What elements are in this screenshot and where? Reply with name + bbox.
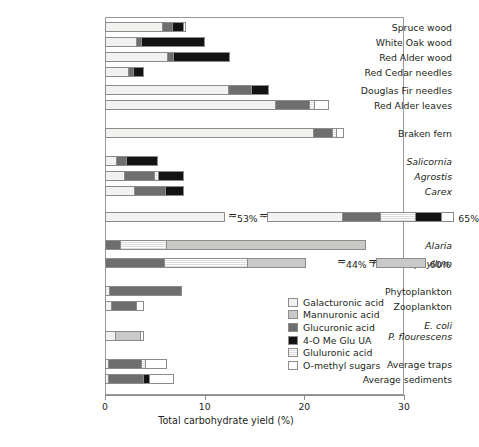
x-tick-2 bbox=[304, 395, 305, 400]
bar-segment bbox=[108, 374, 143, 384]
bar-segment bbox=[380, 212, 416, 222]
bar-segment bbox=[105, 22, 162, 32]
bar-segment bbox=[166, 240, 366, 250]
axis-break-right-12: ≂ bbox=[368, 257, 377, 267]
category-label-8: Agrostis bbox=[349, 172, 452, 182]
bar-segment bbox=[105, 100, 275, 110]
category-label-9: Carex bbox=[349, 187, 452, 197]
legend-swatch-0 bbox=[288, 298, 298, 307]
axis-break-left-10: ≂ bbox=[228, 211, 237, 221]
x-tick-3 bbox=[404, 395, 405, 400]
x-tick-0 bbox=[105, 395, 106, 400]
bar-segment bbox=[105, 212, 225, 222]
x-axis-line bbox=[105, 395, 404, 396]
legend-swatch-4 bbox=[288, 348, 298, 357]
bar-segment bbox=[111, 301, 136, 311]
bar-segment bbox=[105, 67, 128, 77]
bar-segment bbox=[267, 212, 342, 222]
legend-swatch-5 bbox=[288, 361, 298, 370]
legend-item-0: Galacturonic acid bbox=[288, 296, 384, 309]
total-value-label-10: 65% bbox=[458, 213, 479, 224]
bar-segment bbox=[173, 52, 229, 62]
bar-segment bbox=[105, 186, 134, 196]
bar-segment bbox=[183, 22, 185, 32]
bar-segment bbox=[313, 128, 332, 138]
bar-segment bbox=[134, 186, 165, 196]
bar-segment bbox=[136, 301, 144, 311]
legend-label-4: Gluluronic acid bbox=[303, 347, 372, 358]
bar-18 bbox=[105, 374, 174, 384]
bar-segment bbox=[314, 100, 329, 110]
bar-segment bbox=[105, 258, 164, 268]
bar-7 bbox=[105, 156, 158, 166]
category-label-3: Red Cedar needles bbox=[349, 68, 452, 78]
bar-segment bbox=[247, 258, 307, 268]
x-tick-label-3: 30 bbox=[398, 401, 410, 412]
bar-segment bbox=[115, 331, 140, 341]
bar-segment bbox=[336, 128, 344, 138]
legend-label-3: 4-O Me Glu UA bbox=[303, 335, 371, 346]
bar-segment bbox=[145, 359, 167, 369]
break-value-label-10: 53% bbox=[237, 213, 258, 224]
break-value-label-12: 44% bbox=[346, 259, 367, 270]
bar-segment bbox=[342, 212, 380, 222]
bar-segment bbox=[105, 52, 167, 62]
bar-8 bbox=[105, 171, 184, 181]
legend: Galacturonic acidMannuronic acidGlucuron… bbox=[288, 296, 384, 372]
x-tick-label-1: 10 bbox=[199, 401, 211, 412]
bar-segment bbox=[105, 128, 313, 138]
axis-break-right-10: ≂ bbox=[259, 211, 268, 221]
axis-break-left-12: ≂ bbox=[337, 257, 346, 267]
category-label-5: Red Alder leaves bbox=[349, 101, 452, 111]
bar-segment bbox=[441, 212, 454, 222]
legend-item-4: Gluluronic acid bbox=[288, 346, 384, 359]
bar-segment bbox=[133, 67, 144, 77]
bar-segment bbox=[165, 186, 184, 196]
bar-2 bbox=[105, 52, 230, 62]
legend-item-5: O-methyl sugars bbox=[288, 359, 384, 372]
bar-segment bbox=[116, 156, 126, 166]
bar-9 bbox=[105, 186, 184, 196]
category-label-13: Phytoplankton bbox=[349, 287, 452, 297]
bar-segment bbox=[120, 240, 166, 250]
bar-segment bbox=[140, 331, 144, 341]
legend-label-1: Mannuronic acid bbox=[303, 309, 380, 320]
bar-segment bbox=[105, 156, 116, 166]
legend-label-5: O-methyl sugars bbox=[303, 360, 380, 371]
bar-13 bbox=[105, 286, 182, 296]
category-label-0: Spruce wood bbox=[349, 23, 452, 33]
bar-10 bbox=[105, 212, 225, 222]
x-tick-label-0: 0 bbox=[102, 401, 108, 412]
bar-segment bbox=[172, 22, 183, 32]
total-value-label-12: 60% bbox=[430, 259, 451, 270]
bar-3 bbox=[105, 67, 144, 77]
bar-1 bbox=[105, 37, 205, 47]
legend-item-2: Glucuronic acid bbox=[288, 321, 384, 334]
x-tick-1 bbox=[205, 395, 206, 400]
bar-16 bbox=[105, 331, 144, 341]
bar-segment bbox=[105, 171, 124, 181]
legend-item-3: 4-O Me Glu UA bbox=[288, 334, 384, 347]
category-label-18: Average sediments bbox=[349, 375, 452, 385]
bar-segment bbox=[109, 286, 182, 296]
category-label-4: Douglas Fir needles bbox=[349, 86, 452, 96]
bar-segment bbox=[108, 359, 141, 369]
legend-swatch-3 bbox=[288, 336, 298, 345]
bar-continuation-12 bbox=[376, 258, 426, 268]
legend-label-2: Glucuronic acid bbox=[303, 322, 375, 333]
bar-6 bbox=[105, 128, 344, 138]
bar-14 bbox=[105, 301, 144, 311]
bar-11 bbox=[105, 240, 366, 250]
x-tick-label-2: 20 bbox=[298, 401, 310, 412]
legend-swatch-2 bbox=[288, 323, 298, 332]
bar-0 bbox=[105, 22, 186, 32]
bar-5 bbox=[105, 100, 329, 110]
bar-segment bbox=[164, 258, 247, 268]
bar-4 bbox=[105, 85, 269, 95]
bar-segment bbox=[275, 100, 309, 110]
category-label-2: Red Alder wood bbox=[349, 53, 452, 63]
bar-segment bbox=[105, 240, 120, 250]
bar-segment bbox=[105, 37, 136, 47]
x-axis-title: Total carbohydrate yield (%) bbox=[0, 415, 452, 426]
category-label-6: Braken fern bbox=[349, 129, 452, 139]
